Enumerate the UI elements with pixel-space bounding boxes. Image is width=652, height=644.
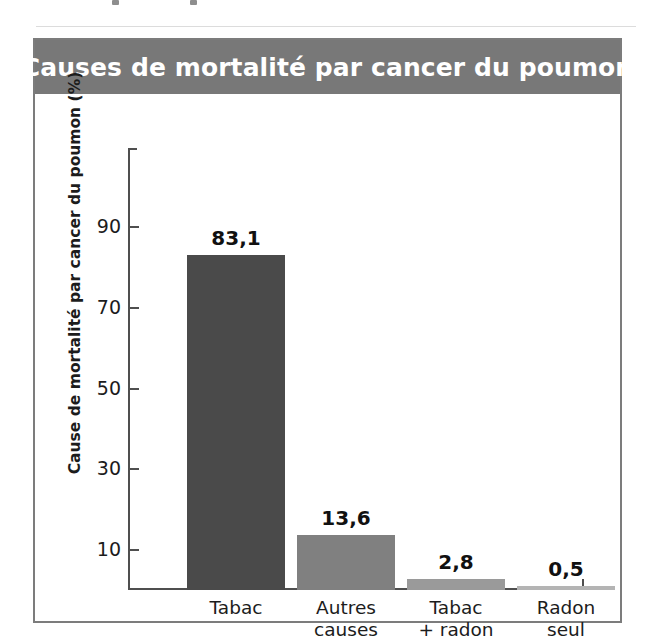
bar-value-label-1: 13,6 <box>297 508 395 528</box>
bar-value-label-2: 2,8 <box>407 552 505 572</box>
bar-3[interactable] <box>517 586 615 590</box>
scan-speck <box>112 0 119 5</box>
bar-value-label-0: 83,1 <box>187 228 285 248</box>
chart-title: Causes de mortalité par cancer du poumon <box>22 53 634 82</box>
x-category-label-0: Tabac <box>173 597 299 619</box>
scan-artifact-strip <box>0 0 652 6</box>
figure-frame: Causes de mortalité par cancer du poumon… <box>33 38 622 623</box>
bar-1[interactable] <box>297 535 395 590</box>
x-category-label-3: Radon seul <box>503 597 629 640</box>
x-category-label-1: Autres causes <box>283 597 409 640</box>
bar-0[interactable] <box>187 255 285 590</box>
scan-edge-rule <box>36 26 636 27</box>
plot-region: Cause de mortalité par cancer du poumon … <box>35 94 620 621</box>
bar-2[interactable] <box>407 579 505 590</box>
bars-layer: 83,1Tabac13,6Autres causes2,8Tabac + rad… <box>35 94 620 621</box>
scan-speck <box>190 0 197 5</box>
title-banner: Causes de mortalité par cancer du poumon <box>35 40 620 94</box>
x-category-label-2: Tabac + radon <box>393 597 519 640</box>
bar-value-label-3: 0,5 <box>517 559 615 579</box>
